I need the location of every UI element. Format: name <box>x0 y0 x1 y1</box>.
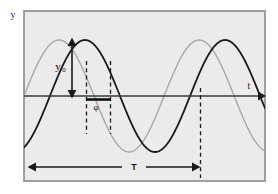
sinusoid-phase-diagram: y t y 0 φ T <box>0 0 278 194</box>
t-axis-label: t <box>248 80 251 91</box>
amplitude-label-subscript: 0 <box>62 66 66 74</box>
period-label: T <box>131 162 137 172</box>
phase-label: φ <box>93 102 98 112</box>
y-axis-label: y <box>11 9 16 20</box>
amplitude-label: y <box>55 60 61 72</box>
figure-container: y t y 0 φ T <box>0 0 278 194</box>
